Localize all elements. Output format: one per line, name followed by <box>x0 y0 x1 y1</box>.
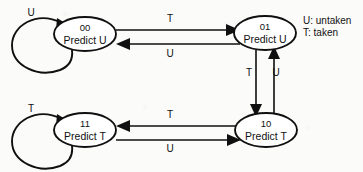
edge-11-to-10 <box>116 134 241 146</box>
legend-line-taken: T: taken <box>303 27 338 38</box>
state-node-01-action: Predict U <box>243 33 286 45</box>
edge-01-to-00-label: U <box>166 48 173 59</box>
fsm-diagram: 00 Predict U 01 Predict U 11 Predict T 1… <box>0 0 363 172</box>
edge-00-to-01 <box>116 24 240 36</box>
state-node-11[interactable]: 11 Predict T <box>54 113 116 147</box>
state-node-00-action: Predict U <box>63 34 106 46</box>
self-loop-00-label: U <box>27 7 34 18</box>
state-node-01-code: 01 <box>260 21 271 32</box>
legend: U: untaken T: taken <box>303 15 351 38</box>
state-node-00[interactable]: 00 Predict U <box>54 17 116 51</box>
edge-10-to-01-label: U <box>272 67 279 78</box>
state-node-00-code: 00 <box>80 22 91 33</box>
fsm-canvas: 00 Predict U 01 Predict U 11 Predict T 1… <box>0 0 363 172</box>
self-loop-11-label: T <box>28 103 34 114</box>
edge-10-to-11-arrowhead <box>116 120 130 132</box>
state-node-10[interactable]: 10 Predict T <box>235 113 297 147</box>
state-node-11-action: Predict T <box>64 130 106 142</box>
edge-01-to-00-arrowhead <box>116 38 130 50</box>
legend-line-untaken: U: untaken <box>303 15 351 26</box>
edge-01-to-00 <box>116 38 240 50</box>
edge-10-to-11 <box>116 120 241 132</box>
state-node-10-action: Predict T <box>245 130 287 142</box>
state-node-01[interactable]: 01 Predict U <box>234 16 296 50</box>
edge-11-to-10-label: U <box>166 143 173 154</box>
edge-10-to-11-label: T <box>167 109 173 120</box>
edge-00-to-01-label: T <box>167 13 173 24</box>
state-node-11-code: 11 <box>80 118 90 129</box>
edge-01-to-10 <box>250 50 262 117</box>
edge-01-to-10-label: T <box>246 67 252 78</box>
state-node-10-code: 10 <box>261 118 272 129</box>
edge-10-to-01 <box>268 46 280 113</box>
